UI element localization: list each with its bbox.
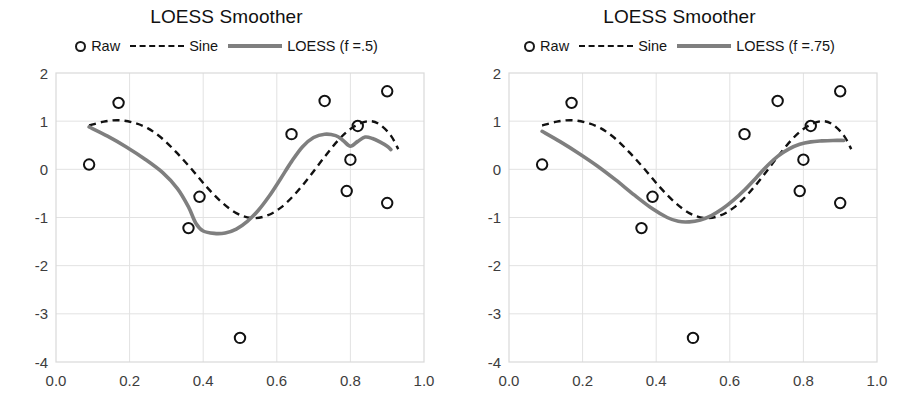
- x-tick-label: 0.2: [572, 372, 593, 389]
- raw-data-point: [835, 198, 845, 208]
- raw-data-point: [113, 98, 123, 108]
- y-tick-label: 0: [493, 161, 501, 178]
- y-tick-label: 0: [40, 161, 48, 178]
- raw-data-point: [688, 333, 698, 343]
- x-tick-label: 1.0: [414, 372, 435, 389]
- x-tick-label: 0.4: [193, 372, 214, 389]
- y-tick-label: 2: [40, 65, 48, 82]
- raw-data-point: [382, 86, 392, 96]
- x-tick-label: 0.0: [46, 372, 67, 389]
- y-tick-label: -3: [488, 305, 501, 322]
- raw-data-point: [84, 159, 94, 169]
- loess-curve: [542, 131, 844, 222]
- y-axis-tick-labels: 210-1-2-3-4: [488, 65, 501, 371]
- x-tick-label: 0.2: [119, 372, 140, 389]
- y-tick-label: -4: [488, 354, 501, 371]
- raw-data-point: [319, 96, 329, 106]
- y-tick-label: 2: [493, 65, 501, 82]
- raw-data-point: [286, 129, 296, 139]
- y-tick-label: 1: [493, 113, 501, 130]
- y-tick-label: -2: [488, 257, 501, 274]
- raw-data-point: [835, 86, 845, 96]
- raw-data-point: [235, 333, 245, 343]
- raw-data-point: [183, 223, 193, 233]
- y-axis-tick-labels: 210-1-2-3-4: [35, 65, 48, 371]
- x-axis-tick-labels: 0.00.20.40.60.81.0: [499, 372, 888, 389]
- x-tick-label: 0.8: [340, 372, 361, 389]
- y-tick-label: -3: [35, 305, 48, 322]
- chart-panel-right: LOESS Smoother Raw Sine LOESS (f =.75) 2…: [453, 0, 906, 406]
- raw-data-point: [636, 223, 646, 233]
- raw-data-point: [537, 159, 547, 169]
- raw-data-point: [382, 198, 392, 208]
- x-tick-label: 0.6: [266, 372, 287, 389]
- y-tick-label: -2: [35, 257, 48, 274]
- plot-svg-right: 210-1-2-3-40.00.20.40.60.81.0: [453, 0, 906, 406]
- y-tick-label: 1: [40, 113, 48, 130]
- x-tick-label: 0.4: [646, 372, 667, 389]
- x-axis-tick-labels: 0.00.20.40.60.81.0: [46, 372, 435, 389]
- y-tick-label: -1: [35, 209, 48, 226]
- x-tick-label: 0.0: [499, 372, 520, 389]
- chart-panel-left: LOESS Smoother Raw Sine LOESS (f =.5) 21…: [0, 0, 453, 406]
- raw-data-point: [772, 96, 782, 106]
- y-tick-label: -1: [488, 209, 501, 226]
- grid-lines: [56, 73, 424, 362]
- plot-svg-left: 210-1-2-3-40.00.20.40.60.81.0: [0, 0, 453, 406]
- raw-data-point: [739, 129, 749, 139]
- plot-area-right: 210-1-2-3-40.00.20.40.60.81.0: [453, 0, 906, 406]
- x-tick-label: 0.8: [793, 372, 814, 389]
- x-tick-label: 1.0: [867, 372, 888, 389]
- plot-area-left: 210-1-2-3-40.00.20.40.60.81.0: [0, 0, 453, 406]
- y-tick-label: -4: [35, 354, 48, 371]
- x-tick-label: 0.6: [719, 372, 740, 389]
- loess-smoother-figure: LOESS Smoother Raw Sine LOESS (f =.5) 21…: [0, 0, 907, 406]
- grid-lines: [509, 73, 877, 362]
- raw-data-point: [566, 98, 576, 108]
